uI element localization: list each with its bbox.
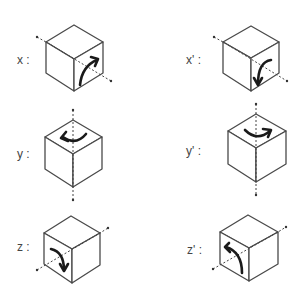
axis-end-dot bbox=[255, 194, 257, 196]
axis-end-dot bbox=[255, 103, 257, 105]
panel-label-y-prime: y' : bbox=[186, 144, 201, 158]
axis-end-dot bbox=[285, 226, 287, 228]
cube bbox=[223, 26, 279, 91]
panel-label-z: z : bbox=[17, 240, 30, 254]
cube bbox=[228, 114, 286, 182]
panel-label-z-prime: z' : bbox=[187, 243, 202, 257]
axis-end-dot bbox=[72, 199, 74, 201]
axis-end-dot bbox=[212, 268, 214, 270]
axis-end-dot bbox=[110, 80, 112, 82]
panel-label-y: y : bbox=[17, 147, 30, 161]
panel-z: z : bbox=[17, 216, 109, 283]
axis-end-dot bbox=[36, 36, 38, 38]
cube-rotation-diagram: x :x' :y :y' :z :z' : bbox=[0, 0, 303, 301]
panel-x: x : bbox=[17, 25, 112, 91]
axis-end-dot bbox=[107, 227, 109, 229]
axis-end-dot bbox=[72, 109, 74, 111]
panel-x-prime: x' : bbox=[186, 26, 288, 91]
panel-z-prime: z' : bbox=[187, 215, 287, 281]
axis-end-dot bbox=[213, 36, 215, 38]
panel-y-prime: y' : bbox=[186, 103, 286, 196]
panel-label-x-prime: x' : bbox=[186, 53, 201, 67]
axis-end-dot bbox=[286, 80, 288, 82]
panel-label-x: x : bbox=[17, 53, 30, 67]
panel-y: y : bbox=[17, 109, 102, 201]
axis-end-dot bbox=[36, 269, 38, 271]
